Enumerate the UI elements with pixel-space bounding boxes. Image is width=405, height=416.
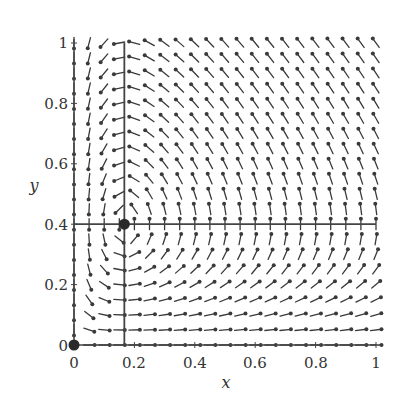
arrow-head xyxy=(220,112,224,116)
arrow-head xyxy=(86,92,90,96)
arrow-head xyxy=(220,142,224,146)
arrow-head xyxy=(280,52,284,56)
arrow-head xyxy=(221,157,225,161)
arrow-head xyxy=(357,157,361,161)
arrow-head xyxy=(295,67,299,71)
arrow-head xyxy=(274,327,278,331)
arrow-head xyxy=(250,112,254,116)
y-tick-label: 0.6 xyxy=(44,155,68,173)
arrow-head xyxy=(90,302,94,306)
arrow-head xyxy=(332,263,336,267)
arrow-head xyxy=(280,97,284,101)
arrow-head xyxy=(144,158,148,162)
arrow-head xyxy=(281,127,285,131)
arrow-head xyxy=(380,343,384,347)
arrow-head xyxy=(296,142,300,146)
arrow-head xyxy=(237,202,241,206)
arrow-head xyxy=(257,263,261,267)
arrow-head xyxy=(379,311,383,315)
arrow-head xyxy=(357,142,361,146)
arrow-head xyxy=(326,112,330,116)
arrow-head xyxy=(378,279,382,283)
arrow-head xyxy=(267,187,271,191)
arrow-head xyxy=(283,202,287,206)
arrow-head xyxy=(158,53,162,57)
arrow-head xyxy=(99,136,103,140)
arrow-head xyxy=(333,279,337,283)
arrow-head xyxy=(265,97,269,101)
arrow-head xyxy=(237,187,241,191)
arrow-head xyxy=(220,82,224,86)
arrow-head xyxy=(108,328,112,332)
arrow-head xyxy=(283,217,287,221)
arrow-head xyxy=(299,217,303,221)
arrow-head xyxy=(127,70,131,74)
arrow-head xyxy=(371,112,375,116)
arrow-head xyxy=(296,157,300,161)
arrow-head xyxy=(99,60,103,64)
arrow-head xyxy=(295,82,299,86)
arrow-head xyxy=(100,167,104,171)
arrow-head xyxy=(136,233,140,237)
arrow-head xyxy=(346,247,350,251)
arrow-head xyxy=(259,327,263,331)
arrow-head xyxy=(312,172,316,176)
arrow-head xyxy=(252,202,256,206)
arrow-head xyxy=(266,127,270,131)
arrow-head xyxy=(161,202,165,206)
arrow-head xyxy=(310,67,314,71)
arrow-head xyxy=(189,82,193,86)
arrow-head xyxy=(240,247,244,251)
arrow-head xyxy=(212,264,216,268)
arrow-head xyxy=(236,157,240,161)
arrow-head xyxy=(99,45,103,49)
arrow-head xyxy=(235,112,239,116)
arrow-head xyxy=(312,187,316,191)
arrow-head xyxy=(341,97,345,101)
arrow-head xyxy=(220,127,224,131)
arrow-head xyxy=(259,312,263,316)
x-tick-label: 0.8 xyxy=(304,354,328,372)
arrow-head xyxy=(348,279,352,283)
arrow-head xyxy=(281,157,285,161)
arrow-head xyxy=(177,202,181,206)
arrow-head xyxy=(159,157,163,161)
arrow-head xyxy=(356,112,360,116)
arrow-head xyxy=(363,279,367,283)
arrow-head xyxy=(143,128,147,132)
arrow-head xyxy=(174,52,178,56)
arrow-head xyxy=(326,97,330,101)
arrow-head xyxy=(227,263,231,267)
arrow-head xyxy=(99,106,103,110)
arrow-head xyxy=(112,148,116,152)
arrow-head xyxy=(190,127,194,131)
arrow-head xyxy=(273,295,277,299)
direction-field-arrows xyxy=(72,37,384,347)
arrow-head xyxy=(189,97,193,101)
arrow-head xyxy=(250,82,254,86)
arrow-head xyxy=(87,213,91,217)
arrow-head xyxy=(256,247,260,251)
arrow-head xyxy=(347,263,351,267)
arrow-head xyxy=(373,187,377,191)
arrow-head xyxy=(174,67,178,71)
arrow-head xyxy=(373,202,377,206)
arrow-head xyxy=(146,202,150,206)
arrow-head xyxy=(138,266,142,270)
arrow-head xyxy=(282,187,286,191)
arrow-head xyxy=(371,82,375,86)
arrow-head xyxy=(127,40,131,44)
arrow-head xyxy=(358,187,362,191)
arrow-head xyxy=(158,38,162,42)
arrow-head xyxy=(281,142,285,146)
arrow-head xyxy=(198,280,202,284)
arrow-head xyxy=(86,182,90,186)
arrow-head xyxy=(319,295,323,299)
arrow-head xyxy=(273,279,277,283)
arrow-head xyxy=(243,279,247,283)
arrow-head xyxy=(225,247,229,251)
arrow-head xyxy=(356,82,360,86)
arrow-head xyxy=(196,248,200,252)
arrow-head xyxy=(252,187,256,191)
arrow-head xyxy=(274,311,278,315)
